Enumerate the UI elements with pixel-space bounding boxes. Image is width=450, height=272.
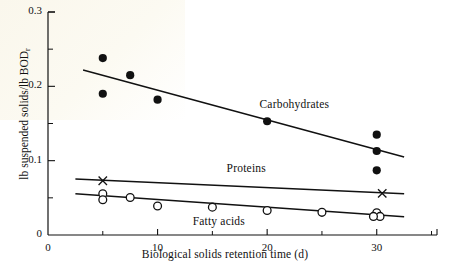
data-point-fatty-acids [99,196,107,204]
series-label-proteins: Proteins [227,162,266,174]
series-label-fatty-acids: Fatty acids [193,215,245,227]
data-point-carbohydrates [99,90,107,98]
data-point-carbohydrates [373,147,381,155]
series-group [75,54,404,220]
x-axis-title: Biological solids retention time (d) [0,248,450,260]
data-point-fatty-acids [370,213,378,221]
data-point-fatty-acids [263,207,271,215]
y-axis-title-subscript: r [23,48,32,51]
data-point-carbohydrates [373,131,381,139]
y-axis-title: lb suspended solids/lb BODr [18,14,30,214]
data-point-carbohydrates [373,166,381,174]
trend-line-fatty-acids [75,194,404,217]
data-point-carbohydrates [126,71,134,79]
data-point-fatty-acids [126,194,134,202]
trend-line-carbohydrates [83,70,404,157]
series-label-carbohydrates: Carbohydrates [259,98,329,110]
y-axis-tick-label: 0 [8,227,42,239]
trend-line-proteins [75,179,404,194]
figure-container: 010203000.10.20.3 CarbohydratesProteinsF… [0,0,450,272]
chart-plot-area [0,0,450,272]
data-point-carbohydrates [99,54,107,62]
y-axis-title-text: lb suspended solids/lb BOD [18,51,30,180]
data-point-fatty-acids [318,208,326,216]
data-point-carbohydrates [153,96,161,104]
data-point-fatty-acids [208,203,216,211]
data-point-carbohydrates [263,117,271,125]
data-point-fatty-acids [154,202,162,210]
